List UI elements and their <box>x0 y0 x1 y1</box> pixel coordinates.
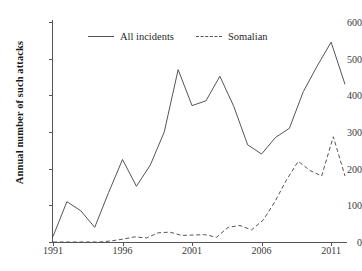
series-line-somalian <box>53 137 345 242</box>
series-line-all-incidents <box>53 42 345 236</box>
line-chart: Annual number of such attacks 0100200300… <box>0 0 362 271</box>
series-plot-layer <box>0 0 362 271</box>
